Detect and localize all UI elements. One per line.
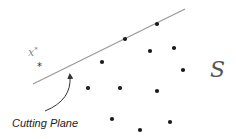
x-star-label: x* — [28, 46, 38, 59]
data-point — [155, 22, 159, 26]
cutting-plane-label: Cutting Plane — [12, 117, 78, 129]
data-point — [138, 128, 142, 132]
data-point — [155, 89, 159, 93]
data-point — [110, 117, 114, 121]
data-point — [168, 120, 172, 124]
data-point — [100, 60, 104, 64]
data-point — [181, 68, 185, 72]
data-point — [86, 86, 90, 90]
data-point — [172, 46, 176, 50]
data-point — [118, 86, 122, 90]
data-point — [148, 49, 152, 53]
x-star-marker: * — [37, 61, 42, 72]
data-point — [123, 37, 127, 41]
cutting-plane-line — [33, 9, 185, 84]
set-s-label: S — [210, 57, 225, 82]
cutting-plane-diagram: x* * S Cutting Plane — [0, 0, 236, 139]
cutting-plane-arrow — [45, 76, 70, 111]
feasible-points — [86, 22, 185, 132]
